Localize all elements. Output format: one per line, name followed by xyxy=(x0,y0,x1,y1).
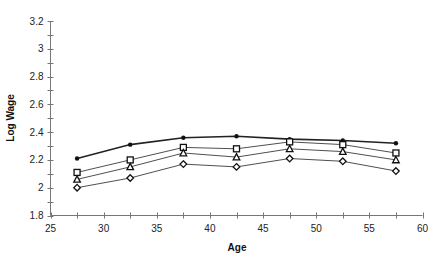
y-tick-label: 1.8 xyxy=(30,210,44,221)
triangle-marker xyxy=(339,148,346,154)
filled-circle-marker xyxy=(234,134,238,138)
triangle-marker xyxy=(233,154,240,160)
diamond-marker xyxy=(127,175,134,182)
diamond-marker xyxy=(339,158,346,165)
triangle-marker xyxy=(286,145,293,151)
x-tick-label: 25 xyxy=(45,223,57,234)
x-axis-title: Age xyxy=(228,242,247,253)
series-diamond xyxy=(74,155,399,191)
triangle-marker xyxy=(127,163,134,169)
series-layer xyxy=(74,134,399,191)
x-tick-label: 35 xyxy=(151,223,163,234)
x-tick-label: 40 xyxy=(204,223,216,234)
x-tick-label: 60 xyxy=(417,223,429,234)
filled-circle-marker xyxy=(128,142,132,146)
filled-circle-marker xyxy=(75,156,79,160)
x-tick-label: 45 xyxy=(258,223,270,234)
filled-circle-marker xyxy=(181,136,185,140)
triangle-marker xyxy=(74,176,81,182)
diamond-marker xyxy=(233,164,240,171)
x-tick-label: 30 xyxy=(98,223,110,234)
line-chart: 1.822.22.42.62.833.2 2530354045505560 Lo… xyxy=(0,0,442,265)
triangle-marker xyxy=(393,156,400,162)
diamond-marker xyxy=(74,184,81,191)
diamond-marker xyxy=(180,161,187,168)
y-axis-title: Log Wage xyxy=(5,94,16,142)
diamond-marker xyxy=(393,168,400,175)
filled-circle-marker xyxy=(394,141,398,145)
y-axis: 1.822.22.42.62.833.2 xyxy=(30,16,54,222)
y-tick-label: 3 xyxy=(38,43,44,54)
square-marker xyxy=(234,146,240,152)
y-tick-label: 2.4 xyxy=(30,127,44,138)
y-tick-label: 2.2 xyxy=(30,154,44,165)
x-axis: 2530354045505560 xyxy=(45,213,429,234)
y-tick-label: 2 xyxy=(38,182,44,193)
x-tick-label: 50 xyxy=(311,223,323,234)
y-tick-label: 2.8 xyxy=(30,71,44,82)
y-tick-label: 2.6 xyxy=(30,99,44,110)
y-tick-label: 3.2 xyxy=(30,16,44,27)
x-tick-label: 55 xyxy=(364,223,376,234)
diamond-marker xyxy=(286,155,293,162)
